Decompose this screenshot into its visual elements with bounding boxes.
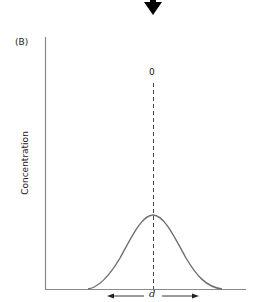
- center-zero-label: 0: [149, 67, 155, 77]
- diffusion-figure: [0, 0, 258, 302]
- down-arrow-icon: [144, 0, 162, 15]
- gaussian-curve: [88, 215, 222, 289]
- panel-label: (B): [15, 37, 28, 47]
- y-axis-label: Concentration: [20, 131, 30, 195]
- width-d-label: d: [149, 288, 155, 299]
